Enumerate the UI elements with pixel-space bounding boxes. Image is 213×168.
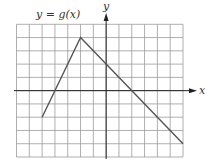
axes xyxy=(14,13,197,159)
function-label: y = g(x) xyxy=(35,8,80,21)
y-axis-arrow-icon xyxy=(104,13,109,21)
function-graph: y = g(x) y x xyxy=(0,0,213,168)
x-axis-label: x xyxy=(199,84,206,97)
x-axis-arrow-icon xyxy=(189,88,197,93)
y-axis-label: y xyxy=(102,0,110,13)
